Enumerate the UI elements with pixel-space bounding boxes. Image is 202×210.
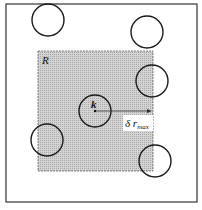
- region-label: R: [41, 54, 49, 66]
- particle-circle: [32, 4, 64, 36]
- diagram-canvas: R k δ rmax: [0, 0, 202, 210]
- particle-circle: [131, 16, 163, 48]
- center-label: k: [91, 98, 97, 110]
- center-dot: [94, 110, 96, 112]
